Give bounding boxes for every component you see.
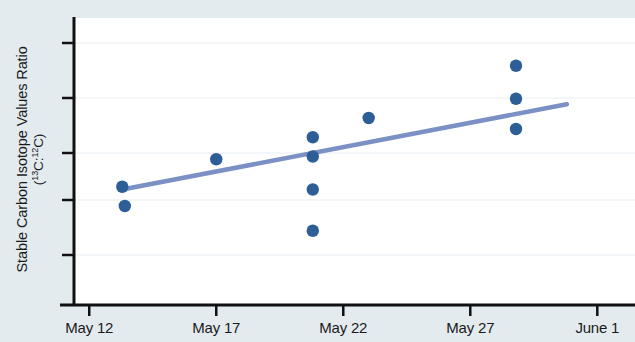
- chart-figure: Stable Carbon Isotope Values Ratio (13C:…: [0, 0, 635, 342]
- data-point-4[interactable]: [307, 150, 319, 162]
- x-tick-label-1: May 17: [192, 319, 240, 336]
- data-point-2[interactable]: [210, 153, 222, 165]
- plot-background: [74, 18, 635, 305]
- x-tick-label-0: May 12: [65, 319, 113, 336]
- x-tick-label-2: May 22: [319, 319, 367, 336]
- data-point-7[interactable]: [362, 112, 374, 124]
- data-point-10[interactable]: [510, 123, 522, 135]
- data-point-0[interactable]: [116, 181, 128, 193]
- data-point-8[interactable]: [510, 60, 522, 72]
- data-point-9[interactable]: [510, 93, 522, 105]
- data-point-3[interactable]: [307, 131, 319, 143]
- x-tick-label-4: June 1: [575, 319, 619, 336]
- scatter-plot: [0, 0, 635, 342]
- data-point-5[interactable]: [307, 183, 319, 195]
- data-point-1[interactable]: [119, 200, 131, 212]
- data-point-6[interactable]: [307, 225, 319, 237]
- x-tick-label-3: May 27: [446, 319, 494, 336]
